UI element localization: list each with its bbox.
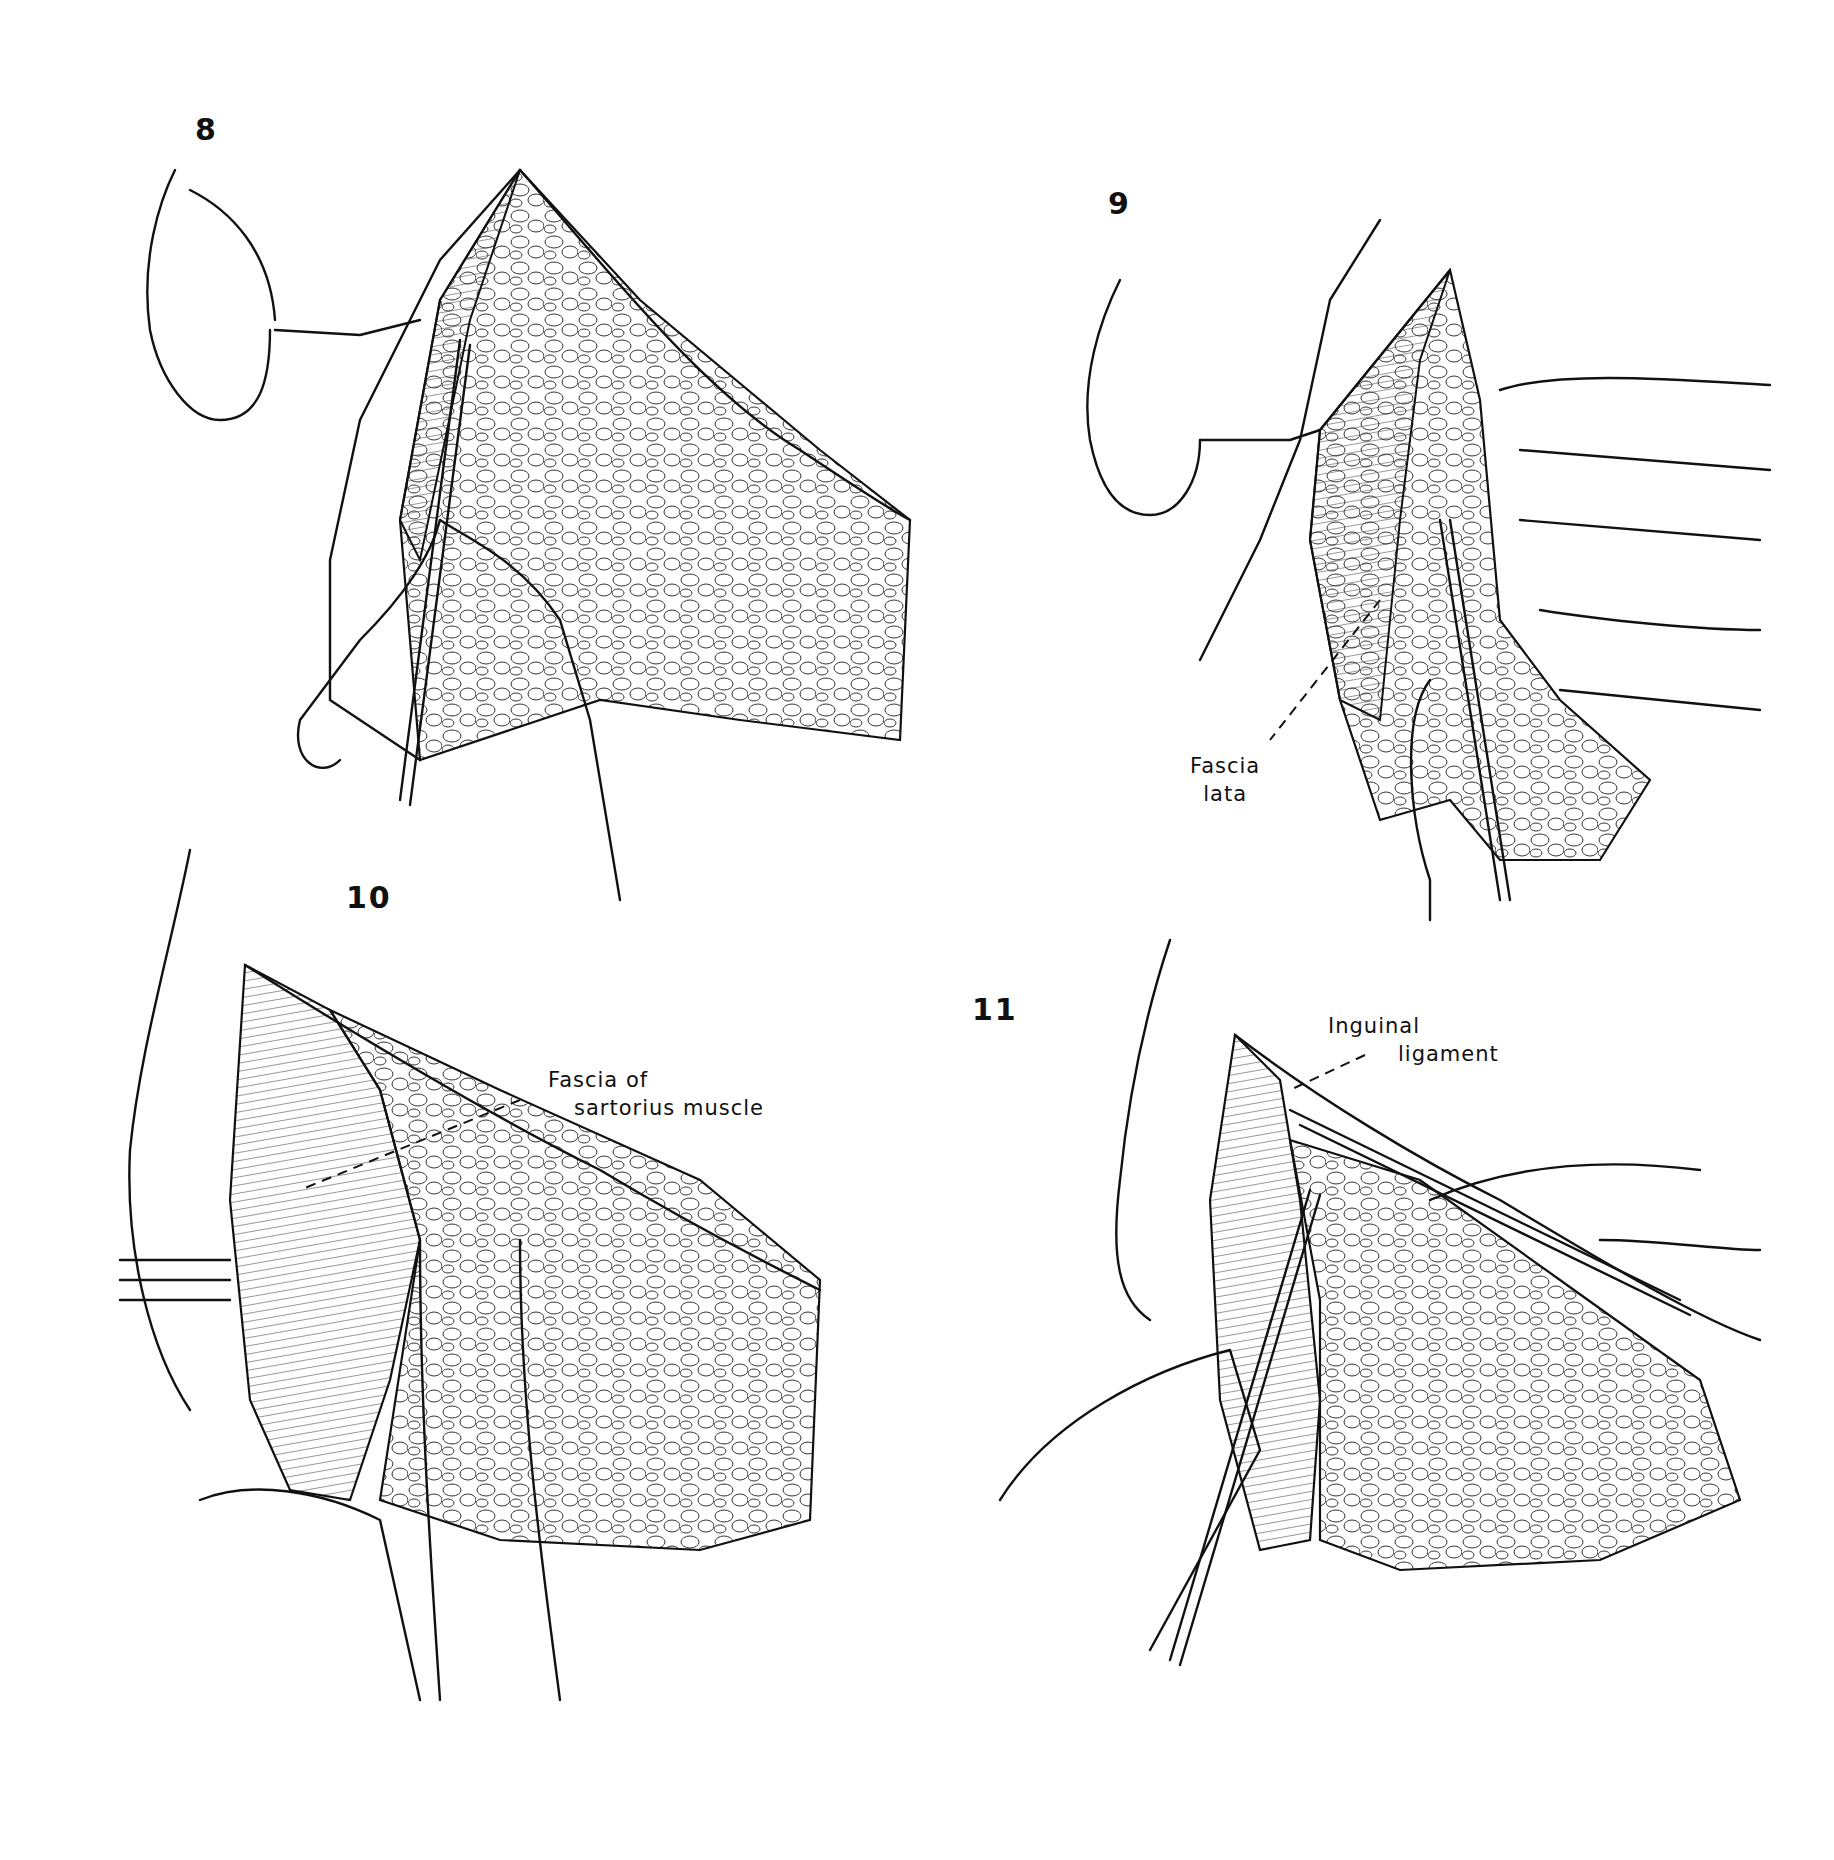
panel-9-drawing	[1087, 220, 1770, 920]
label-line-1: Inguinal	[1328, 1012, 1499, 1040]
label-line-2: lata	[1190, 780, 1260, 808]
figure-number-9: 9	[1108, 186, 1131, 221]
figure-number-8: 8	[195, 112, 218, 147]
label-fascia-lata: Fascia lata	[1190, 752, 1260, 808]
panel-8-drawing	[147, 170, 910, 900]
label-inguinal-ligament: Inguinal ligament	[1328, 1012, 1499, 1068]
surgical-illustration	[0, 0, 1834, 1860]
label-line-1: Fascia	[1190, 752, 1260, 780]
label-fascia-of-sartorius: Fascia of sartorius muscle	[548, 1066, 764, 1122]
label-line-2: sartorius muscle	[548, 1094, 764, 1122]
label-line-1: Fascia of	[548, 1066, 764, 1094]
label-line-2: ligament	[1328, 1040, 1499, 1068]
panel-10-drawing	[120, 850, 820, 1700]
figure-number-10: 10	[346, 880, 392, 915]
figure-number-11: 11	[972, 992, 1018, 1027]
